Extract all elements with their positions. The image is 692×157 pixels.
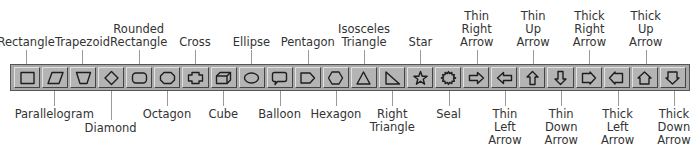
balloon-button[interactable]: [267, 67, 293, 88]
label-line: Parallelogram: [15, 108, 94, 121]
label-line: Arrow: [629, 36, 662, 49]
autoshapes-toolbar: [10, 64, 690, 91]
leader-line: [223, 91, 224, 106]
rounded-rectangle-button[interactable]: [126, 67, 152, 88]
pentagon-label: Pentagon: [281, 36, 335, 49]
thin-right-arrow-button[interactable]: [463, 67, 489, 88]
pentagon-icon: [298, 70, 317, 86]
star-icon: [411, 70, 430, 86]
label-line: Trapezoid: [55, 36, 110, 49]
label-line: Star: [409, 36, 433, 49]
thin-down-arrow-label: ThinDownArrow: [545, 108, 578, 147]
thick-left-arrow-button[interactable]: [604, 67, 630, 88]
label-line: Arrow: [601, 134, 634, 147]
label-line: Arrow: [516, 36, 549, 49]
hexagon-label: Hexagon: [310, 108, 361, 121]
trapezoid-label: Trapezoid: [55, 36, 110, 49]
label-line: Arrow: [488, 134, 521, 147]
isosceles-triangle-label: IsoscelesTriangle: [338, 23, 390, 49]
leader-line: [308, 50, 309, 64]
leader-line: [54, 91, 55, 106]
trapezoid-button[interactable]: [70, 67, 96, 88]
ellipse-icon: [242, 70, 261, 86]
leader-line: [533, 50, 534, 64]
thin-right-arrow-icon: [467, 70, 486, 86]
diamond-label: Diamond: [85, 122, 137, 135]
hexagon-icon: [326, 70, 345, 86]
label-line: Hexagon: [310, 108, 361, 121]
leader-line: [505, 91, 506, 106]
octagon-icon: [158, 70, 177, 86]
label-line: Seal: [436, 108, 461, 121]
star-button[interactable]: [407, 67, 433, 88]
hexagon-button[interactable]: [323, 67, 349, 88]
thick-down-arrow-button[interactable]: [660, 67, 686, 88]
thick-right-arrow-label: ThickRightArrow: [573, 10, 606, 49]
leader-line: [589, 50, 590, 64]
leader-line: [674, 91, 675, 106]
thin-up-arrow-label: ThinUpArrow: [516, 10, 549, 49]
parallelogram-button[interactable]: [42, 67, 68, 88]
leader-line: [449, 91, 450, 106]
leader-line: [139, 50, 140, 64]
cross-button[interactable]: [182, 67, 208, 88]
label-line: Octagon: [143, 108, 192, 121]
cross-icon: [186, 70, 205, 86]
seal-button[interactable]: [435, 67, 461, 88]
thick-down-arrow-label: ThickDownArrow: [657, 108, 690, 147]
balloon-icon: [270, 70, 289, 86]
label-line: Arrow: [657, 134, 690, 147]
thin-right-arrow-label: ThinRightArrow: [460, 10, 493, 49]
leader-line: [111, 91, 112, 120]
cross-label: Cross: [179, 36, 211, 49]
label-line: Cube: [208, 108, 238, 121]
leader-line: [167, 91, 168, 106]
leader-line: [251, 50, 252, 64]
label-line: Pentagon: [281, 36, 335, 49]
diamond-button[interactable]: [98, 67, 124, 88]
thick-down-arrow-icon: [663, 70, 682, 86]
thick-up-arrow-label: ThickUpArrow: [629, 10, 662, 49]
thin-left-arrow-button[interactable]: [491, 67, 517, 88]
leader-line: [618, 91, 619, 106]
trapezoid-icon: [74, 70, 93, 86]
thin-down-arrow-button[interactable]: [547, 67, 573, 88]
ellipse-button[interactable]: [239, 67, 265, 88]
leader-line: [336, 91, 337, 106]
label-line: Triangle: [370, 121, 415, 134]
rectangle-button[interactable]: [14, 67, 40, 88]
label-line: Arrow: [460, 36, 493, 49]
isosceles-triangle-button[interactable]: [351, 67, 377, 88]
isosceles-triangle-icon: [354, 70, 373, 86]
label-line: Arrow: [545, 134, 578, 147]
thin-up-arrow-button[interactable]: [519, 67, 545, 88]
label-line: Rectangle: [0, 36, 55, 49]
thick-right-arrow-icon: [579, 70, 598, 86]
diamond-icon: [102, 70, 121, 86]
thick-right-arrow-button[interactable]: [576, 67, 602, 88]
cube-button[interactable]: [211, 67, 237, 88]
leader-line: [392, 91, 393, 106]
octagon-button[interactable]: [154, 67, 180, 88]
leader-line: [646, 50, 647, 64]
rounded-rectangle-icon: [130, 70, 149, 86]
leader-line: [26, 50, 27, 64]
thick-up-arrow-button[interactable]: [632, 67, 658, 88]
octagon-label: Octagon: [143, 108, 192, 121]
seal-icon: [439, 70, 458, 86]
label-line: Cross: [179, 36, 211, 49]
right-triangle-label: RightTriangle: [370, 108, 415, 134]
ellipse-label: Ellipse: [233, 36, 270, 49]
thin-up-arrow-icon: [523, 70, 542, 86]
pentagon-button[interactable]: [295, 67, 321, 88]
thin-left-arrow-icon: [495, 70, 514, 86]
thick-up-arrow-icon: [635, 70, 654, 86]
cube-icon: [214, 70, 233, 86]
right-triangle-icon: [383, 70, 402, 86]
balloon-label: Balloon: [258, 108, 301, 121]
thin-down-arrow-icon: [551, 70, 570, 86]
leader-line: [420, 50, 421, 64]
leader-line: [280, 91, 281, 106]
label-line: Rectangle: [110, 36, 167, 49]
right-triangle-button[interactable]: [379, 67, 405, 88]
